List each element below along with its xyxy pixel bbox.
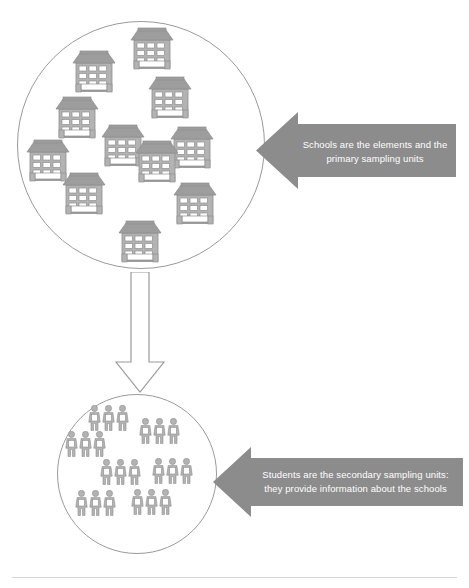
- school-building-icon: [116, 218, 164, 265]
- down-arrow-connector-icon: [113, 272, 167, 394]
- student-group: [100, 459, 141, 485]
- person-icon: [100, 459, 113, 485]
- school-building-icon: [171, 180, 219, 227]
- school-building-icon: [60, 170, 108, 217]
- person-icon: [128, 459, 141, 485]
- person-icon: [93, 431, 106, 457]
- student-group: [152, 458, 193, 484]
- person-icon: [65, 431, 78, 457]
- person-icon: [159, 489, 172, 515]
- person-icon: [167, 418, 180, 444]
- schools-callout-arrow: Schools are the elements and the primary…: [256, 112, 456, 189]
- person-icon: [88, 405, 101, 431]
- person-icon: [79, 431, 92, 457]
- students-callout-arrow: Students are the secondary sampling unit…: [213, 447, 463, 517]
- person-icon: [103, 490, 116, 516]
- students-callout-text: Students are the secondary sampling unit…: [253, 468, 458, 496]
- school-building-icon: [128, 25, 176, 72]
- person-icon: [116, 405, 129, 431]
- person-icon: [153, 418, 166, 444]
- student-group: [65, 431, 106, 457]
- person-icon: [152, 458, 165, 484]
- school-building-icon: [53, 94, 101, 141]
- person-icon: [180, 458, 193, 484]
- person-icon: [89, 490, 102, 516]
- school-building-icon: [133, 138, 181, 185]
- student-group: [75, 490, 116, 516]
- person-icon: [114, 459, 127, 485]
- school-building-icon: [70, 48, 118, 95]
- person-icon: [145, 489, 158, 515]
- person-icon: [166, 458, 179, 484]
- schools-callout-text: Schools are the elements and the primary…: [300, 138, 450, 166]
- student-group: [131, 489, 172, 515]
- person-icon: [139, 418, 152, 444]
- footer-divider: [12, 577, 457, 578]
- person-icon: [75, 490, 88, 516]
- student-group: [139, 418, 180, 444]
- person-icon: [102, 405, 115, 431]
- person-icon: [131, 489, 144, 515]
- diagram-canvas: Schools are the elements and the primary…: [0, 0, 469, 588]
- school-building-icon: [146, 74, 194, 121]
- student-group: [88, 405, 129, 431]
